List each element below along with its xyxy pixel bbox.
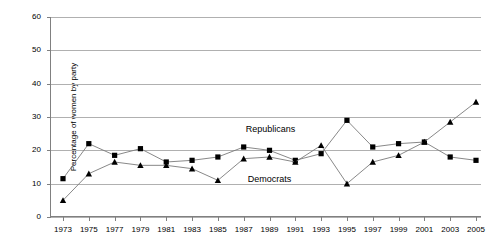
- data-point-republicans-1985: [215, 154, 220, 159]
- x-tick-mark-1981: [166, 217, 167, 221]
- x-tick-label-2005: 2005: [461, 225, 487, 234]
- data-point-democrats-2003: [447, 119, 453, 125]
- y-tick-label-50: 50: [19, 46, 41, 54]
- series-label-republicans: Republicans: [246, 124, 296, 134]
- data-point-republicans-1993: [319, 151, 324, 156]
- data-point-democrats-1999: [395, 152, 401, 158]
- data-point-republicans-2003: [448, 154, 453, 159]
- x-tick-mark-2001: [424, 217, 425, 221]
- x-tick-mark-1977: [115, 217, 116, 221]
- data-point-democrats-2005: [473, 99, 479, 105]
- plot-area: Percentage of women by party 01020304050…: [50, 17, 481, 217]
- x-tick-mark-1973: [63, 217, 64, 221]
- y-tick-label-60: 60: [19, 13, 41, 21]
- x-tick-mark-1985: [218, 217, 219, 221]
- y-tick-label-0: 0: [19, 213, 41, 221]
- x-tick-mark-1979: [140, 217, 141, 221]
- series-label-democrats: Democrats: [248, 174, 292, 184]
- x-tick-mark-1987: [244, 217, 245, 221]
- x-tick-mark-1975: [89, 217, 90, 221]
- x-tick-mark-1999: [399, 217, 400, 221]
- data-series-layer: [51, 17, 482, 217]
- data-point-republicans-2005: [473, 158, 478, 163]
- y-tick-label-10: 10: [19, 180, 41, 188]
- data-point-democrats-1977: [111, 159, 117, 165]
- x-tick-mark-1989: [270, 217, 271, 221]
- y-tick-label-30: 30: [19, 113, 41, 121]
- y-tick-mark-0: [47, 217, 51, 218]
- y-tick-label-40: 40: [19, 80, 41, 88]
- x-tick-mark-1993: [321, 217, 322, 221]
- data-point-republicans-1983: [189, 158, 194, 163]
- data-point-republicans-1977: [112, 153, 117, 158]
- x-tick-mark-1997: [373, 217, 374, 221]
- x-tick-mark-2003: [450, 217, 451, 221]
- data-point-republicans-1997: [370, 144, 375, 149]
- data-point-republicans-1987: [241, 144, 246, 149]
- data-point-democrats-1975: [86, 170, 92, 176]
- data-point-republicans-1979: [138, 146, 143, 151]
- data-point-democrats-1993: [318, 142, 324, 148]
- data-point-republicans-1975: [86, 141, 91, 146]
- x-tick-mark-1995: [347, 217, 348, 221]
- chart-container: Percentage of women by party 01020304050…: [0, 0, 487, 249]
- data-point-republicans-1999: [396, 141, 401, 146]
- y-tick-label-20: 20: [19, 146, 41, 154]
- data-point-republicans-1995: [344, 118, 349, 123]
- x-tick-mark-2005: [476, 217, 477, 221]
- data-point-republicans-1973: [60, 176, 65, 181]
- x-tick-mark-1991: [295, 217, 296, 221]
- data-point-republicans-1989: [267, 148, 272, 153]
- x-tick-mark-1983: [192, 217, 193, 221]
